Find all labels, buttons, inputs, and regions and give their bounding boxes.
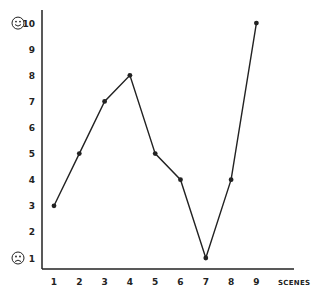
face-annotations [12,17,24,264]
data-series [52,21,259,261]
data-point [127,73,132,78]
x-tick-label: 5 [152,277,158,287]
y-tick-label: 7 [29,97,35,107]
scene-emotion-chart: 12345678910 123456789 SCENES [0,0,315,300]
x-tick-label: 3 [101,277,107,287]
x-tick-label: 7 [203,277,209,287]
y-tick-label: 6 [29,123,35,133]
x-tick-label: 8 [228,277,234,287]
x-tick-label: 4 [127,277,133,287]
y-tick-label: 2 [29,227,35,237]
data-point [229,177,234,182]
y-tick-label: 1 [29,254,35,264]
x-tick-label: 9 [253,277,259,287]
y-tick-labels: 12345678910 [22,19,35,264]
axes [42,10,294,269]
y-tick-label: 9 [29,45,35,55]
data-point [254,21,259,26]
data-point [153,151,158,156]
sad-face-icon [12,252,24,264]
x-tick-label: 1 [51,277,57,287]
data-point [52,203,57,208]
y-tick-label: 5 [29,149,35,159]
y-tick-label: 4 [29,175,35,185]
data-point [77,151,82,156]
data-point [203,256,208,261]
data-point [102,99,107,104]
x-tick-label: 2 [76,277,82,287]
y-tick-label: 8 [29,71,35,81]
y-tick-label: 3 [29,201,35,211]
x-tick-labels: 123456789 [51,277,260,287]
series-line [54,23,256,258]
x-axis-label: SCENES [278,279,310,287]
x-tick-label: 6 [177,277,183,287]
data-point [178,177,183,182]
